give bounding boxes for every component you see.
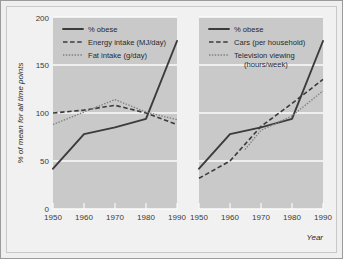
figure-frame: 0 50 100 150 200 1950 1960 1970 1980 199…: [0, 0, 343, 259]
left-legend-label-energy: Energy intake (MJ/day): [88, 38, 167, 47]
xtick-1990: 1990: [168, 213, 186, 222]
left-legend-label-obese: % obese: [88, 25, 118, 34]
dual-line-chart: 0 50 100 150 200 1950 1960 1970 1980 199…: [7, 7, 336, 252]
xtick-1950: 1950: [44, 213, 62, 222]
xtick-1990: 1990: [314, 213, 332, 222]
x-axis-title: Year: [307, 233, 324, 242]
ytick-50: 50: [40, 157, 49, 166]
left-legend-label-fat: Fat intake (g/day): [88, 51, 148, 60]
right-legend-label-television: Television viewing: [234, 51, 295, 60]
xtick-1980: 1980: [283, 213, 301, 222]
xtick-1960: 1960: [75, 213, 93, 222]
xtick-1970: 1970: [106, 213, 124, 222]
left-xtick-labels: 1950 1960 1970 1980 1990: [44, 213, 186, 222]
ytick-100: 100: [36, 109, 50, 118]
right-legend-label-cars: Cars (per household): [234, 38, 306, 47]
right-legend-label-obese: % obese: [234, 25, 264, 34]
ytick-200: 200: [36, 14, 50, 23]
left-ytick-labels: 0 50 100 150 200: [36, 14, 50, 214]
figure-panel: 0 50 100 150 200 1950 1960 1970 1980 199…: [6, 6, 337, 253]
ytick-150: 150: [36, 61, 50, 70]
xtick-1950: 1950: [190, 213, 208, 222]
y-axis-title: % of mean for all time points: [16, 63, 25, 164]
right-panel: 1950 1960 1970 1980 1990 % obese C: [190, 17, 332, 222]
xtick-1980: 1980: [137, 213, 155, 222]
xtick-1970: 1970: [252, 213, 270, 222]
left-panel: 0 50 100 150 200 1950 1960 1970 1980 199…: [36, 14, 187, 222]
xtick-1960: 1960: [221, 213, 239, 222]
right-xtick-labels: 1950 1960 1970 1980 1990: [190, 213, 332, 222]
right-legend-label-television-units: (hours/week): [244, 60, 288, 69]
